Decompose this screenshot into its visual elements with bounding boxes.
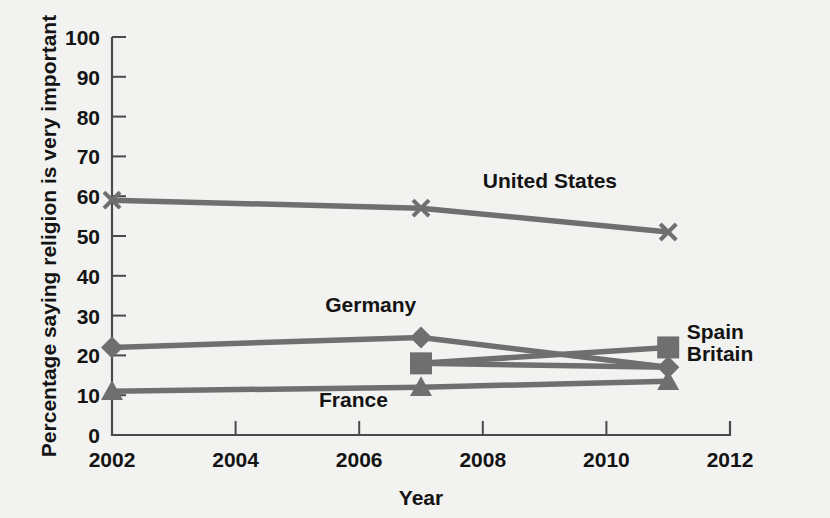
series-line-united-states (112, 200, 668, 232)
y-tick-label-100: 100 (65, 26, 100, 49)
x-tick-label-2006: 2006 (336, 448, 383, 471)
y-tick-label-20: 20 (77, 344, 100, 367)
series-line-france (112, 381, 668, 391)
y-tick-label-80: 80 (77, 106, 100, 129)
chart-figure: 0102030405060708090100200220042006200820… (0, 0, 830, 518)
y-tick-label-90: 90 (77, 66, 100, 89)
x-tick-label-2010: 2010 (583, 448, 630, 471)
series-label-united-states: United States (483, 169, 617, 192)
y-axis-title: Percentage saying religion is very impor… (37, 15, 60, 457)
series-label-france: France (319, 388, 388, 411)
axis-frame (112, 37, 730, 435)
y-tick-label-0: 0 (88, 424, 100, 447)
x-tick-label-2002: 2002 (89, 448, 136, 471)
y-tick-label-10: 10 (77, 384, 100, 407)
y-tick-label-40: 40 (77, 265, 100, 288)
x-axis-title: Year (399, 486, 443, 509)
series-label-britain: Britain (687, 342, 754, 365)
y-tick-label-50: 50 (77, 225, 100, 248)
series-label-spain: Spain (687, 320, 744, 343)
marker-spain-2011 (657, 336, 679, 358)
y-tick-label-60: 60 (77, 185, 100, 208)
x-tick-label-2004: 2004 (212, 448, 259, 471)
axes: 0102030405060708090100200220042006200820… (65, 26, 753, 471)
y-tick-label-30: 30 (77, 305, 100, 328)
y-tick-label-70: 70 (77, 145, 100, 168)
x-tick-label-2012: 2012 (707, 448, 754, 471)
x-tick-label-2008: 2008 (459, 448, 506, 471)
marker-germany-2007 (410, 326, 432, 348)
series-label-germany: Germany (325, 293, 416, 316)
line-chart-canvas: 0102030405060708090100200220042006200820… (0, 0, 830, 518)
